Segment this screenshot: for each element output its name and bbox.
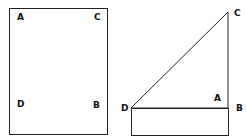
folded-paper-rectangle: [10, 9, 108, 135]
figure2-label-c: C: [234, 9, 241, 18]
remaining-strip: [132, 109, 229, 136]
figure2-label-d: D: [121, 104, 128, 113]
figure2-label-a: A: [214, 94, 221, 103]
figure1-label-b: B: [93, 101, 100, 110]
diagram-canvas: [0, 0, 247, 139]
figure2-label-b: B: [236, 104, 243, 113]
figure1-label-c: C: [94, 13, 101, 22]
figure1-label-d: D: [17, 100, 24, 109]
figure1-label-a: A: [17, 13, 24, 22]
